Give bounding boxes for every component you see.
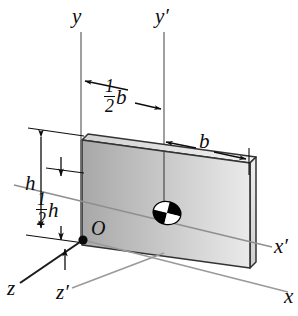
half-h-extension-mid	[46, 168, 84, 173]
x-prime-mark: ′	[283, 234, 288, 258]
z-prime-mark: ′	[64, 280, 69, 304]
plate-right-face	[250, 157, 256, 268]
h-extension-bottom	[26, 235, 84, 243]
half-h-fraction: 1 2	[36, 191, 47, 228]
half-b-fraction: 1 2	[104, 78, 115, 115]
half-b-symbol: b	[116, 87, 127, 108]
b-symbol: b	[199, 129, 210, 153]
half-h-symbol: h	[48, 200, 59, 221]
half-b-denominator: 2	[104, 98, 115, 115]
dimension-b-label: b	[199, 131, 210, 152]
x-axis-label: x	[284, 286, 293, 307]
half-b-numerator: 1	[104, 78, 115, 95]
half-b-arrow-right	[135, 103, 161, 109]
y-axis-label: y	[72, 6, 81, 27]
dimension-half-h-label: 1 2 h	[36, 189, 59, 229]
dimension-h-label: h	[25, 173, 36, 194]
figure-canvas	[0, 0, 298, 316]
plate-axes-figure: y y′ x′ x z z′ O 1 2 b b	[0, 0, 298, 316]
x-prime-axis-label: x′	[274, 236, 288, 257]
z-prime-axis-line	[72, 253, 164, 288]
z-prime-axis-label: z′	[56, 282, 69, 303]
h-symbol: h	[25, 171, 36, 195]
z-axis-line	[20, 240, 83, 283]
origin-label: O	[91, 218, 105, 238]
half-h-denominator: 2	[36, 211, 47, 228]
y-prime-axis-label: y′	[155, 6, 169, 27]
z-axis-label: z	[7, 278, 15, 299]
dimension-half-b-label: 1 2 b	[104, 76, 127, 116]
plate-solid	[82, 134, 256, 268]
h-extension-top	[28, 128, 84, 136]
y-prime-mark: ′	[164, 4, 169, 28]
half-h-numerator: 1	[36, 191, 47, 208]
